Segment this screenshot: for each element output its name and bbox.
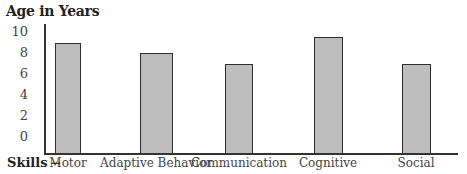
y-axis-line	[44, 24, 46, 153]
right-arrow-icon: →	[51, 156, 61, 170]
x-axis-title-text: Skills	[7, 155, 48, 170]
y-tick-label: 0	[0, 130, 28, 144]
x-tick-label: Communication	[191, 156, 287, 170]
y-tick-label: 8	[0, 46, 28, 60]
y-tick-label: 6	[0, 67, 28, 81]
bar-motor	[55, 43, 81, 154]
y-tick-label: 4	[0, 88, 28, 102]
bar-social	[402, 64, 431, 154]
bar-cognitive	[314, 37, 343, 153]
x-axis-line	[44, 153, 458, 155]
cropped-title-fragment	[140, 0, 380, 3]
x-axis-title: Skills→	[7, 155, 61, 170]
y-tick-label: 2	[0, 109, 28, 123]
x-tick-label: Social	[398, 156, 435, 170]
x-tick-label: Cognitive	[299, 156, 357, 170]
y-tick-label: 10	[0, 25, 28, 39]
y-axis-title: Age in Years	[6, 3, 99, 19]
bar-adaptive-behavior	[140, 53, 173, 153]
bar-communication	[225, 64, 253, 154]
